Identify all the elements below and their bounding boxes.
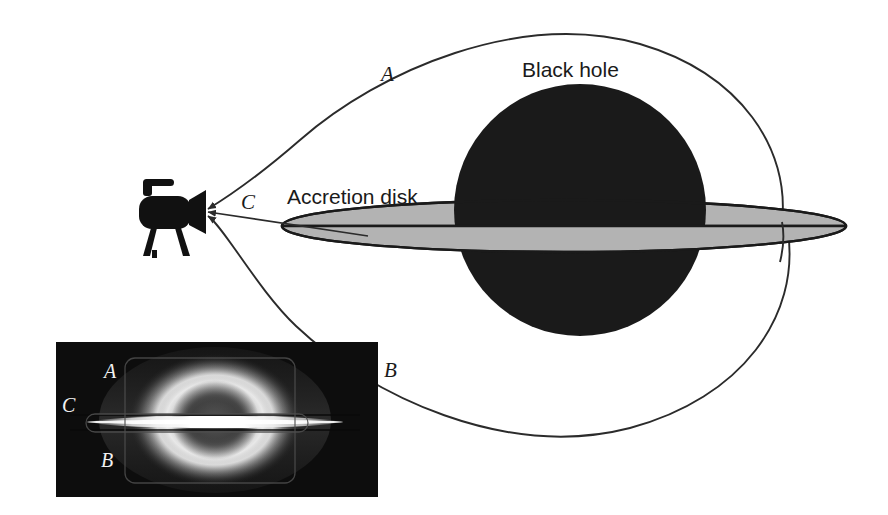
accretion-disk-label: Accretion disk	[287, 185, 418, 208]
inset-ray-c-label: C	[62, 394, 76, 416]
figure-canvas: Black hole Accretion disk A B C	[0, 0, 888, 515]
black-hole-sphere	[454, 84, 706, 336]
ray-b-label: B	[384, 358, 397, 382]
inset-ray-b-label: B	[101, 449, 113, 471]
black-hole-label: Black hole	[522, 58, 619, 81]
ray-a-label: A	[379, 62, 394, 86]
inset-ray-a-label: A	[102, 360, 117, 382]
black-hole-light-paths-figure: Black hole Accretion disk A B C	[0, 0, 888, 515]
ray-c-label: C	[241, 190, 256, 214]
simulated-image-inset: A C B	[56, 342, 378, 497]
observer-camera-icon	[139, 179, 206, 258]
accretion-disk-near-half	[282, 226, 846, 252]
